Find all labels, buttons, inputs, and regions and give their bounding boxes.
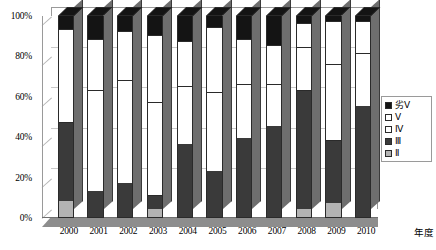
bar-side-face — [371, 0, 380, 209]
bar-group-2002[interactable] — [117, 16, 133, 218]
x-tick-label-2001: 2001 — [89, 226, 107, 236]
x-tick-label-2010: 2010 — [357, 226, 375, 236]
bar-front-face — [206, 16, 222, 218]
legend-item-ii[interactable]: Ⅱ — [385, 147, 429, 159]
bar-segment-V — [356, 21, 370, 53]
bar-segment-IV — [237, 84, 251, 139]
y-tick-label-60: 60% — [15, 92, 32, 102]
bar-front-face — [236, 16, 252, 218]
bar-segment-IV — [207, 92, 221, 171]
bar-segment-II — [59, 201, 73, 217]
bar-segment-V — [207, 27, 221, 92]
bar-segment-V — [178, 41, 192, 85]
bar-group-2007[interactable] — [266, 16, 282, 218]
bar-front-face — [87, 16, 103, 218]
x-tick-label-2006: 2006 — [238, 226, 256, 236]
legend-label-v: Ⅴ — [395, 113, 401, 122]
legend-item-worse-v[interactable]: 劣Ⅴ — [385, 99, 429, 111]
y-axis-line — [42, 16, 43, 218]
bar-front-face — [325, 16, 341, 218]
bar-segment-III — [148, 195, 162, 209]
bar-group-2009[interactable] — [325, 16, 341, 218]
bar-side-face — [342, 0, 351, 209]
bar-group-2008[interactable] — [296, 16, 312, 218]
bar-side-face — [74, 0, 83, 209]
bar-segment-III — [326, 140, 340, 203]
bar-segment-IV — [356, 53, 370, 106]
bar-front-face — [147, 16, 163, 218]
bar-segment-劣V — [297, 15, 311, 23]
bar-segment-V — [237, 39, 251, 83]
legend-label-worse-v: 劣Ⅴ — [395, 101, 410, 110]
bar-segment-IV — [297, 47, 311, 89]
x-tick-label-2008: 2008 — [298, 226, 316, 236]
x-tick-label-2007: 2007 — [268, 226, 286, 236]
y-tick-label-80: 80% — [15, 51, 32, 61]
plot-area — [42, 16, 378, 218]
white-swatch — [385, 114, 392, 121]
y-tick-label-100: 100% — [11, 11, 32, 21]
bar-group-2001[interactable] — [87, 16, 103, 218]
bar-segment-劣V — [207, 15, 221, 27]
y-tick-label-0: 0% — [20, 213, 32, 223]
legend-label-iii: Ⅲ — [395, 137, 401, 146]
x-tick-label-2004: 2004 — [179, 226, 197, 236]
bar-segment-劣V — [148, 15, 162, 35]
legend-label-ii: Ⅱ — [395, 149, 399, 158]
bar-segment-IV — [178, 86, 192, 145]
bar-front-face — [177, 16, 193, 218]
bar-segment-IV — [267, 84, 281, 126]
bar-segment-V — [297, 23, 311, 47]
bar-group-2010[interactable] — [355, 16, 371, 218]
bar-front-face — [355, 16, 371, 218]
bar-segment-III — [178, 144, 192, 217]
x-tick-label-2009: 2009 — [327, 226, 345, 236]
bar-segment-III — [88, 191, 102, 217]
bar-side-face — [223, 0, 232, 209]
bar-segment-II — [326, 203, 340, 217]
dark-gray-swatch — [385, 138, 392, 145]
x-tick-label-2003: 2003 — [149, 226, 167, 236]
bar-segment-劣V — [178, 15, 192, 41]
bar-side-face — [104, 0, 113, 209]
bar-segment-劣V — [118, 15, 132, 31]
bar-group-2000[interactable] — [58, 16, 74, 218]
bar-front-face — [266, 16, 282, 218]
white-swatch — [385, 126, 392, 133]
bar-segment-IV — [59, 29, 73, 122]
bar-segment-II — [148, 209, 162, 217]
bar-segment-III — [207, 171, 221, 217]
bar-segment-V — [326, 21, 340, 63]
x-tick-label-2005: 2005 — [208, 226, 226, 236]
x-axis: 年度 2000200120022003200420052006200720082… — [42, 226, 436, 242]
black-swatch — [385, 102, 392, 109]
bar-segment-II — [297, 209, 311, 217]
bar-side-face — [163, 0, 172, 209]
legend-item-iii[interactable]: Ⅲ — [385, 135, 429, 147]
bar-segment-V — [267, 45, 281, 83]
bar-segment-III — [118, 183, 132, 217]
bar-segment-III — [59, 122, 73, 201]
bar-front-face — [296, 16, 312, 218]
bar-segment-III — [297, 90, 311, 209]
legend-item-iv[interactable]: Ⅳ — [385, 123, 429, 135]
y-axis: 100% 80% 60% 40% 20% 0% — [0, 0, 34, 250]
bar-group-2005[interactable] — [206, 16, 222, 218]
bar-side-face — [133, 0, 142, 209]
bar-group-2004[interactable] — [177, 16, 193, 218]
bar-side-face — [312, 0, 321, 209]
light-gray-swatch — [385, 150, 392, 157]
bar-side-face — [282, 0, 291, 209]
bar-group-2003[interactable] — [147, 16, 163, 218]
legend-item-v[interactable]: Ⅴ — [385, 111, 429, 123]
bar-segment-V — [148, 35, 162, 102]
bar-segment-V — [118, 31, 132, 79]
bar-segment-劣V — [59, 15, 73, 29]
legend-label-iv: Ⅳ — [395, 125, 403, 134]
x-tick-label-2002: 2002 — [119, 226, 137, 236]
bar-segment-劣V — [88, 15, 102, 39]
bar-segment-劣V — [267, 15, 281, 45]
bar-segment-IV — [88, 90, 102, 191]
bar-group-2006[interactable] — [236, 16, 252, 218]
bar-front-face — [117, 16, 133, 218]
